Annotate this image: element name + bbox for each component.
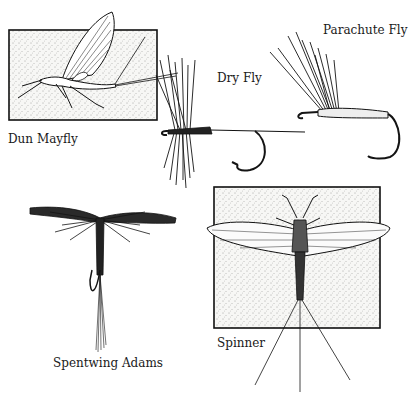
label-dun-mayfly: Dun Mayfly xyxy=(8,132,78,146)
label-spentwing-adams: Spentwing Adams xyxy=(53,356,163,370)
parachute-fly-post xyxy=(270,32,339,112)
spentwing-adams-tail xyxy=(96,275,106,352)
spinner-figure xyxy=(207,187,390,392)
spinner-thorax xyxy=(292,220,308,252)
dry-fly-hackle xyxy=(156,55,195,188)
parachute-fly-body xyxy=(318,108,388,118)
parachute-fly-figure xyxy=(270,32,399,159)
label-dry-fly: Dry Fly xyxy=(217,71,262,85)
parachute-fly-hook xyxy=(298,112,399,159)
illustration-canvas: Dun Mayfly Dry Fly Parachute Fly xyxy=(0,0,415,397)
fly-illustration: Dun Mayfly Dry Fly Parachute Fly xyxy=(0,0,415,397)
label-parachute-fly: Parachute Fly xyxy=(323,23,408,37)
spentwing-adams-figure xyxy=(30,207,176,352)
dun-mayfly-figure xyxy=(9,12,178,120)
label-spinner: Spinner xyxy=(217,336,265,350)
spentwing-adams-body xyxy=(96,218,104,275)
spinner-abdomen xyxy=(295,252,305,300)
